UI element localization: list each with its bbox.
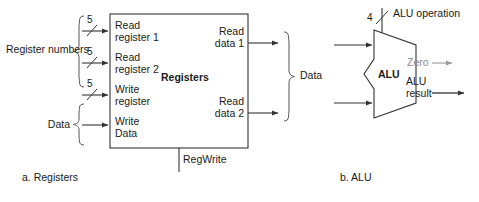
port-label-read-data-1-line2: data 1 xyxy=(178,38,244,50)
port-label-write-register-line2: register xyxy=(115,96,150,108)
alu-result-label-line1: ALU xyxy=(406,76,426,88)
alu-group xyxy=(334,8,464,118)
port-label-write-data-line2: Data xyxy=(115,128,137,140)
alu-operation-label: ALU operation xyxy=(393,8,460,20)
port-label-read-register-1-line1: Read xyxy=(115,20,140,32)
diagram-canvas: Register numbers Data 5 5 5 Read registe… xyxy=(0,0,479,202)
regwrite-label: RegWrite xyxy=(183,154,227,166)
registers-caption: a. Registers xyxy=(22,172,78,184)
data-output-label: Data xyxy=(300,70,322,82)
bus-width-read-register-2: 5 xyxy=(87,46,93,58)
alu-operation-bus-width: 4 xyxy=(367,12,373,24)
alu-zero-output-label: Zero xyxy=(407,57,429,69)
port-label-write-register-line1: Write xyxy=(115,84,139,96)
bus-width-read-register-1: 5 xyxy=(87,14,93,26)
alu-result-label-line2: result xyxy=(406,88,432,100)
port-label-write-data-line1: Write xyxy=(115,116,139,128)
data-input-label: Data xyxy=(14,119,70,131)
registers-block-label: Registers xyxy=(161,72,209,84)
port-label-read-data-1-line1: Read xyxy=(178,26,244,38)
port-label-read-register-1-line2: register 1 xyxy=(115,32,159,44)
port-label-read-register-2-line1: Read xyxy=(115,52,140,64)
alu-caption: b. ALU xyxy=(340,172,372,184)
data-output-brace xyxy=(284,32,295,121)
register-numbers-label: Register numbers xyxy=(6,44,70,56)
alu-block-label: ALU xyxy=(378,69,400,81)
bus-width-write-register: 5 xyxy=(87,78,93,90)
port-label-read-register-2-line2: register 2 xyxy=(115,64,159,76)
port-label-read-data-2-line1: Read xyxy=(178,96,244,108)
port-label-read-data-2-line2: data 2 xyxy=(178,108,244,120)
